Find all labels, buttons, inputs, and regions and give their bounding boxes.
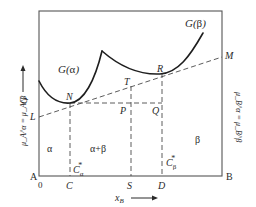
y-axis-arrowhead-icon: [21, 65, 26, 71]
point-t-label: T: [124, 76, 131, 87]
point-q-label: Q: [152, 105, 160, 116]
g-beta-label: G(β): [185, 17, 206, 30]
corner-b-label: B: [226, 171, 233, 182]
x-axis-arrowhead-icon: [152, 196, 158, 201]
point-m-label: M: [224, 50, 234, 61]
x-tick-d: D: [157, 180, 166, 191]
c-beta-star-label: Cβ*: [166, 154, 177, 171]
free-energy-diagram: G(α) G(β) N T R P Q L M α α+β β Cα* Cβ* …: [0, 0, 256, 207]
point-p-label: P: [119, 105, 126, 116]
x-tick-s: S: [127, 180, 132, 191]
mu-b-equality-label: μ_B^α = μ_B^β: [234, 91, 243, 142]
region-alpha-beta-label: α+β: [90, 143, 106, 154]
origin-label: 0: [38, 180, 43, 190]
x-axis-label: xB: [114, 192, 124, 205]
point-l-label: L: [29, 111, 36, 122]
mu-a-equality-label: μ_A^α = μ_A^β: [19, 96, 28, 147]
corner-a-label: A: [30, 171, 38, 182]
point-n-label: N: [65, 91, 74, 102]
region-alpha-label: α: [47, 143, 53, 154]
point-r-label: R: [156, 63, 163, 74]
region-beta-label: β: [195, 134, 200, 145]
x-tick-c: C: [66, 180, 73, 191]
g-alpha-label: G(α): [58, 63, 79, 76]
